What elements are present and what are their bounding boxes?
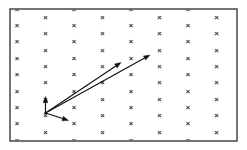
vector-field-plot: ××××××××××××××××××××××××××××××××××××××××… <box>0 0 247 150</box>
grid-marker-x-icon: × <box>15 119 20 128</box>
grid-marker-x-icon: × <box>157 78 162 87</box>
grid-marker-x-icon: × <box>129 54 134 63</box>
grid-marker-x-icon: × <box>100 111 105 120</box>
grid-marker-x-icon: × <box>157 29 162 38</box>
grid-marker-x-icon: × <box>72 103 77 112</box>
grid-marker-x-icon: × <box>186 37 191 46</box>
grid-marker-x-icon: × <box>43 78 48 87</box>
grid-marker-x-icon: × <box>157 111 162 120</box>
grid-marker-x-icon: × <box>72 119 77 128</box>
grid-marker-x-icon: × <box>129 21 134 30</box>
grid-marker-x-icon: × <box>72 21 77 30</box>
grid-marker-x-icon: × <box>186 54 191 63</box>
grid-marker-x-icon: × <box>186 119 191 128</box>
grid-marker-x-icon: × <box>129 87 134 96</box>
grid-marker-x-icon: × <box>72 37 77 46</box>
grid-marker-x-icon: × <box>15 37 20 46</box>
grid-marker-x-icon: × <box>157 13 162 22</box>
grid-marker-x-icon: × <box>100 29 105 38</box>
grid-marker-x-icon: × <box>15 136 20 145</box>
grid-marker-x-icon: × <box>100 128 105 137</box>
grid-marker-x-icon: × <box>43 46 48 55</box>
grid-marker-x-icon: × <box>129 70 134 79</box>
grid-marker-x-icon: × <box>157 95 162 104</box>
figure-root: ××××××××××××××××××××××××××××××××××××××××… <box>0 0 247 150</box>
grid-marker-x-icon: × <box>43 128 48 137</box>
grid-marker-x-icon: × <box>214 29 219 38</box>
grid-marker-x-icon: × <box>214 95 219 104</box>
grid-marker-x-icon: × <box>72 70 77 79</box>
grid-marker-x-icon: × <box>129 37 134 46</box>
grid-marker-x-icon: × <box>15 87 20 96</box>
grid-marker-x-icon: × <box>186 21 191 30</box>
grid-marker-x-icon: × <box>186 103 191 112</box>
grid-marker-x-icon: × <box>214 78 219 87</box>
grid-marker-x-icon: × <box>186 70 191 79</box>
grid-marker-x-icon: × <box>100 95 105 104</box>
vector-origin-point <box>44 112 47 115</box>
grid-marker-x-icon: × <box>15 103 20 112</box>
grid-marker-x-icon: × <box>214 13 219 22</box>
grid-marker-x-icon: × <box>157 128 162 137</box>
grid-marker-x-icon: × <box>157 46 162 55</box>
grid-marker-x-icon: × <box>129 103 134 112</box>
grid-marker-x-icon: × <box>15 21 20 30</box>
grid-marker-x-icon: × <box>43 62 48 71</box>
grid-marker-x-icon: × <box>72 136 77 145</box>
grid-marker-x-icon: × <box>214 62 219 71</box>
grid-marker-x-icon: × <box>100 62 105 71</box>
grid-marker-x-icon: × <box>100 46 105 55</box>
grid-marker-x-icon: × <box>214 46 219 55</box>
grid-marker-x-icon: × <box>157 62 162 71</box>
grid-marker-x-icon: × <box>43 29 48 38</box>
grid-marker-x-icon: × <box>43 13 48 22</box>
grid-marker-x-icon: × <box>214 128 219 137</box>
grid-marker-x-icon: × <box>186 136 191 145</box>
grid-marker-x-icon: × <box>214 111 219 120</box>
grid-marker-x-icon: × <box>129 136 134 145</box>
grid-marker-x-icon: × <box>100 13 105 22</box>
grid-marker-x-icon: × <box>129 119 134 128</box>
grid-marker-x-icon: × <box>72 54 77 63</box>
grid-marker-x-icon: × <box>15 70 20 79</box>
grid-marker-x-icon: × <box>15 54 20 63</box>
grid-marker-x-icon: × <box>186 87 191 96</box>
